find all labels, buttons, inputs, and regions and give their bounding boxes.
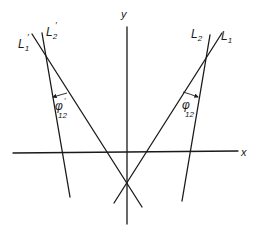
x-axis bbox=[13, 151, 238, 153]
svg-text:12: 12 bbox=[58, 111, 67, 120]
diagram-canvas: x y L1 ′ L2 ′ L2 L1 φ ′ 12 φ 12 bbox=[0, 0, 258, 232]
label-L2-prime: L2 ′ bbox=[46, 20, 58, 41]
svg-text:12: 12 bbox=[185, 110, 194, 119]
svg-text:′: ′ bbox=[27, 32, 29, 42]
label-L2: L2 bbox=[191, 27, 203, 43]
y-axis-label: y bbox=[120, 8, 128, 20]
label-phi12: φ 12 bbox=[182, 98, 194, 119]
label-L1-prime: L1 ′ bbox=[18, 32, 29, 53]
svg-text:′: ′ bbox=[64, 96, 66, 105]
line-L1-prime bbox=[32, 34, 142, 207]
svg-text:L2: L2 bbox=[191, 27, 203, 43]
x-axis-label: x bbox=[240, 146, 247, 158]
svg-text:L1: L1 bbox=[221, 29, 232, 45]
svg-text:′: ′ bbox=[55, 20, 57, 30]
angle-arc-phi12 bbox=[183, 92, 198, 97]
label-L1: L1 bbox=[221, 29, 232, 45]
